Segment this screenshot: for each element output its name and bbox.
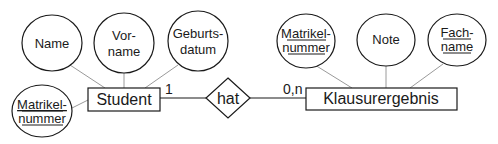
key-attribute-label-line1: Matrikel- [17,97,67,112]
attribute-matrikelnummer-klausur: Matrikel- nummer [277,14,335,68]
relationship-label: hat [217,90,240,107]
cardinality-left: 1 [165,81,173,97]
entity-klausurergebnis: Klausurergebnis [306,88,457,110]
attribute-geburtsdatum: Geburts- datum [168,11,228,71]
attribute-label-line2: datum [180,42,216,57]
connector-matrikelnummer-klausur [315,65,352,88]
attribute-label: Name [35,36,70,51]
attribute-label-line2: name [108,44,141,59]
attribute-label-line1: Vor- [112,28,136,43]
entity-student: Student [88,88,160,111]
entity-label: Klausurergebnis [323,90,439,107]
connector-name [70,65,105,88]
key-attribute-label-line2: nummer [282,40,330,55]
key-attribute-label-line2: name [441,39,474,54]
key-attribute-label-line2: nummer [18,111,66,126]
attribute-name: Name [22,15,82,71]
connector-geburtsdatum [145,65,178,88]
attribute-matrikelnummer-student: Matrikel- nummer [12,85,72,137]
connector-matrikelnummer-student [72,100,88,108]
key-attribute-label-line1: Fach- [440,25,473,40]
cardinality-right: 0,n [283,81,302,97]
attribute-label-line1: Geburts- [173,26,224,41]
er-diagram: Name Vor- name Geburts- datum Matrikel- … [0,0,498,144]
attribute-vorname: Vor- name [94,13,154,73]
relationship-hat: hat [206,78,250,118]
attribute-note: Note [357,14,415,66]
entity-label: Student [96,91,152,108]
connector-fachname [410,64,443,88]
key-attribute-label-line1: Matrikel- [281,26,331,41]
attribute-label: Note [372,32,399,47]
attribute-fachname: Fach- name [428,14,486,66]
